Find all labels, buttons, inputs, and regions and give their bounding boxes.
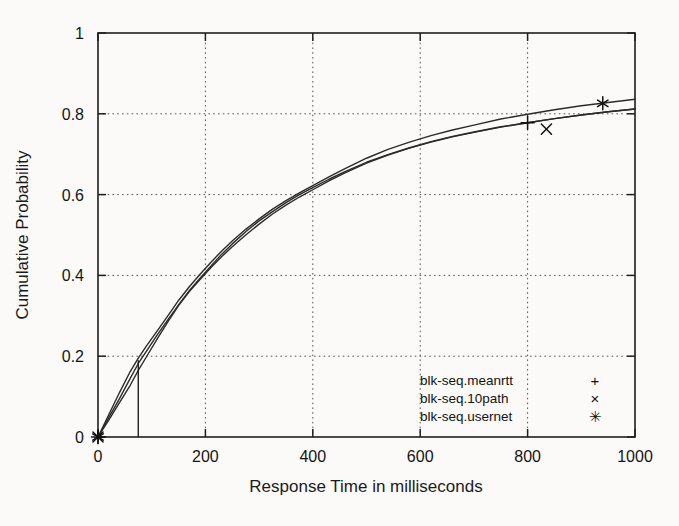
y-tick-label: 0.8 [62,106,84,123]
x-tick-label: 400 [299,448,326,465]
legend-marker: × [591,390,600,407]
legend-marker: + [591,372,600,389]
chart-figure: 0200400600800100000.20.40.60.81 Response… [0,0,679,526]
axis-ticks [98,33,635,437]
gridlines [98,33,635,437]
x-tick-label: 1000 [617,448,653,465]
x-tick-label: 200 [192,448,219,465]
cdf-line-chart: 0200400600800100000.20.40.60.81 Response… [0,0,679,526]
y-tick-label: 0 [75,429,84,446]
plot-frame [98,33,635,437]
y-tick-label: 0.6 [62,187,84,204]
legend-label: blk-seq.meanrtt [420,373,513,388]
legend-marker: ✳ [589,408,602,425]
y-axis-title: Cumulative Probability [13,150,32,320]
legend: blk-seq.meanrtt+blk-seq.10path×blk-seq.u… [420,372,602,425]
data-marker-x [541,124,551,134]
series-line [98,99,635,437]
x-tick-label: 600 [407,448,434,465]
y-tick-label: 0.4 [62,267,84,284]
x-axis-title: Response Time in milliseconds [249,477,482,496]
axis-tick-labels: 0200400600800100000.20.40.60.81 [62,25,653,465]
legend-label: blk-seq.10path [420,391,509,406]
legend-label: blk-seq.usernet [420,409,513,424]
y-tick-label: 1 [75,25,84,42]
x-tick-label: 800 [514,448,541,465]
x-tick-label: 0 [94,448,103,465]
series-lines [98,99,635,437]
plot-border [98,33,635,437]
data-marker-+ [521,116,534,129]
data-point-markers [92,97,608,444]
y-tick-label: 0.2 [62,348,84,365]
